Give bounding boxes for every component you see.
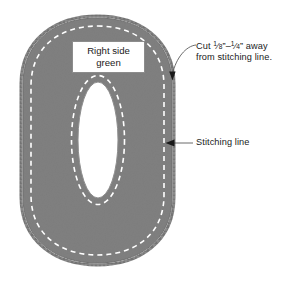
- right-side-label-line1: Right side: [87, 45, 130, 57]
- cut-fraction-two: 1⁄4: [231, 41, 240, 51]
- cut-prefix: Cut: [196, 41, 213, 51]
- cut-allowance-annotation: Cut 1⁄8”–1⁄4” away from stitching line.: [196, 38, 272, 64]
- fraction2-numerator: 1: [231, 40, 235, 47]
- cut-suffix: away: [243, 41, 268, 51]
- right-side-label-box: Right side green: [72, 41, 145, 73]
- right-side-label-line2: green: [96, 57, 121, 69]
- fraction1-numerator: 1: [213, 40, 217, 47]
- pattern-diagram-page: Right side green Cut 1⁄8”–1⁄4” away from…: [0, 0, 293, 281]
- stitching-line-annotation: Stitching line: [196, 137, 250, 149]
- cut-annotation-line2: from stitching line.: [196, 52, 272, 64]
- cut-annotation-line1: Cut 1⁄8”–1⁄4” away: [196, 38, 272, 52]
